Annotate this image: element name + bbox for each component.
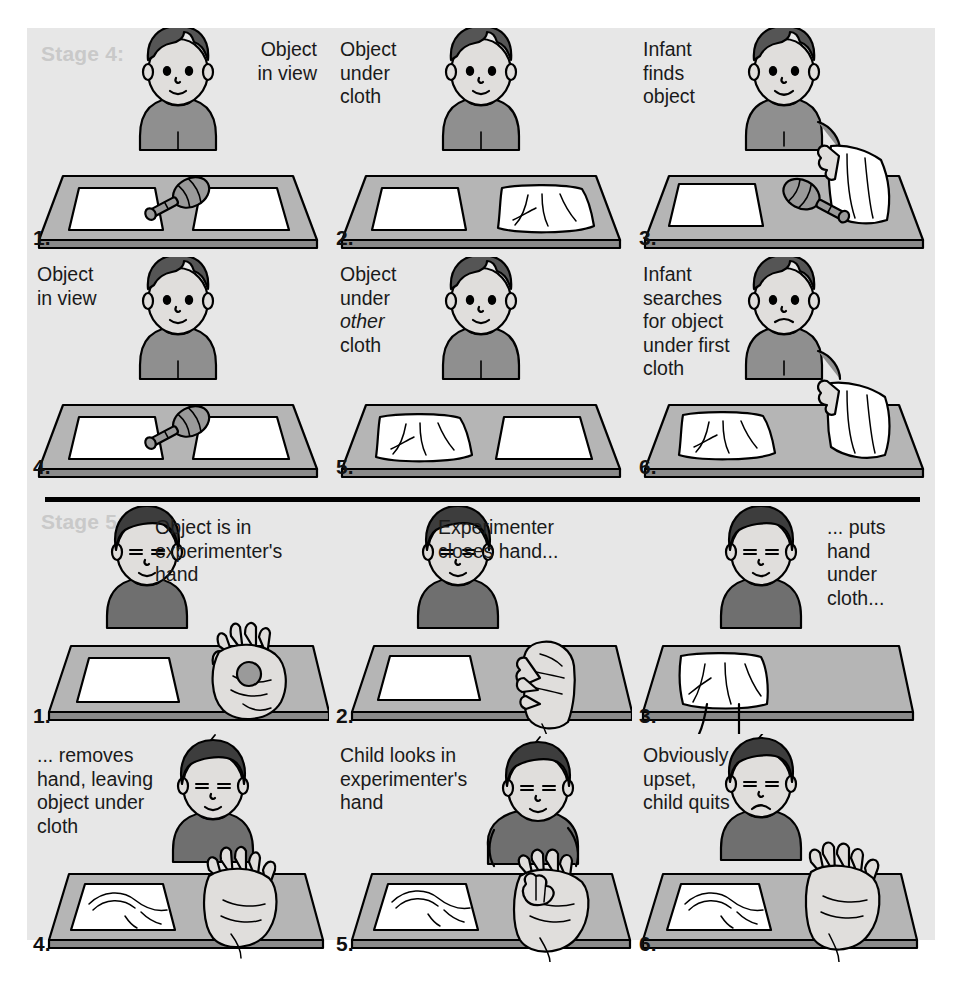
- panel-number-stage5-3: 3.: [639, 704, 657, 728]
- caption-stage4-5-part3: cloth: [340, 334, 381, 356]
- caption-stage4-4: Object in view: [37, 263, 97, 310]
- panel-stage4-1: Object in view 1.: [27, 28, 329, 256]
- panel-number-stage5-6: 6.: [639, 932, 657, 956]
- panel-stage5-6: Obviously upset, child quits 6.: [633, 734, 935, 962]
- panel-stage5-5: Child looks in experimenter's hand 5.: [330, 734, 632, 962]
- panel-number-stage5-4: 4.: [33, 932, 51, 956]
- caption-stage4-2: Object under cloth: [340, 38, 396, 109]
- caption-stage4-3: Infant finds object: [643, 38, 695, 109]
- panel-number-stage4-3: 3.: [639, 226, 657, 250]
- caption-stage5-1: Object is in experimenter's hand: [155, 516, 282, 587]
- panel-number-stage4-2: 2.: [336, 226, 354, 250]
- scene-stage5-3: [633, 506, 935, 734]
- stage-divider: [45, 497, 920, 502]
- panel-number-stage4-5: 5.: [336, 455, 354, 479]
- caption-stage4-1: Object in view: [257, 38, 317, 85]
- panel-number-stage5-5: 5.: [336, 932, 354, 956]
- panel-number-stage5-1: 1.: [33, 704, 51, 728]
- panel-stage4-5: Object under other cloth 5.: [330, 257, 632, 485]
- panel-number-stage4-1: 1.: [33, 226, 51, 250]
- caption-stage5-5: Child looks in experimenter's hand: [340, 744, 467, 815]
- caption-stage4-6: Infant searches for object under first c…: [643, 263, 730, 381]
- caption-stage5-6: Obviously upset, child quits: [643, 744, 730, 815]
- panel-stage5-3: ... puts hand under cloth... 3.: [633, 506, 935, 734]
- caption-stage4-5-emphasis: other: [340, 310, 384, 332]
- panel-stage4-2: Object under cloth 2.: [330, 28, 632, 256]
- panel-number-stage4-4: 4.: [33, 455, 51, 479]
- panel-stage5-2: Experimenter closes hand... 2.: [330, 506, 632, 734]
- caption-stage5-4: ... removes hand, leaving object under c…: [37, 744, 153, 838]
- caption-stage4-5-part1: Object under: [340, 263, 396, 309]
- panel-number-stage5-2: 2.: [336, 704, 354, 728]
- panel-stage5-1: Object is in experimenter's hand 1.: [27, 506, 329, 734]
- panel-stage4-3: Infant finds object 3.: [633, 28, 935, 256]
- panel-stage4-4: Object in view 4.: [27, 257, 329, 485]
- panel-stage4-6: Infant searches for object under first c…: [633, 257, 935, 485]
- object-permanence-figure: Stage 4: Stage 5:: [0, 0, 959, 982]
- panel-number-stage4-6: 6.: [639, 455, 657, 479]
- caption-stage5-3: ... puts hand under cloth...: [827, 516, 886, 610]
- caption-stage5-2: Experimenter closes hand...: [438, 516, 558, 563]
- panel-stage5-4: ... removes hand, leaving object under c…: [27, 734, 329, 962]
- figure-panel: Stage 4: Stage 5:: [27, 28, 935, 940]
- caption-stage4-5: Object under other cloth: [340, 263, 396, 357]
